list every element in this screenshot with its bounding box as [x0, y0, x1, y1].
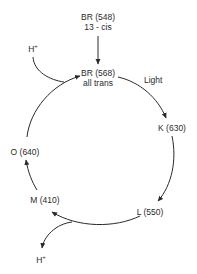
- node-o640: O (640): [11, 147, 40, 157]
- node-br568-sub: all trans: [81, 78, 115, 88]
- node-br548: BR (548) 13 - cis: [81, 12, 115, 32]
- arrow-o-to-br568: [27, 76, 80, 137]
- proton-uptake-label: H+: [28, 44, 38, 54]
- node-br568-name: BR (568): [81, 68, 115, 78]
- light-label: Light: [144, 75, 162, 85]
- node-k630: K (630): [158, 123, 186, 133]
- node-m410: M (410): [30, 195, 59, 205]
- arrow-proton-release: [42, 222, 72, 248]
- arrow-l-to-m: [52, 212, 140, 225]
- node-br548-sub: 13 - cis: [81, 22, 115, 32]
- arrow-k-to-l: [158, 136, 174, 201]
- node-br568: BR (568) all trans: [81, 68, 115, 88]
- arrow-m-to-o: [26, 160, 37, 190]
- proton-release-label: H+: [36, 255, 46, 265]
- node-br548-name: BR (548): [81, 12, 115, 22]
- arrow-proton-uptake: [33, 57, 64, 82]
- node-l550: L (550): [137, 207, 164, 217]
- photocycle-arrows: [0, 0, 197, 274]
